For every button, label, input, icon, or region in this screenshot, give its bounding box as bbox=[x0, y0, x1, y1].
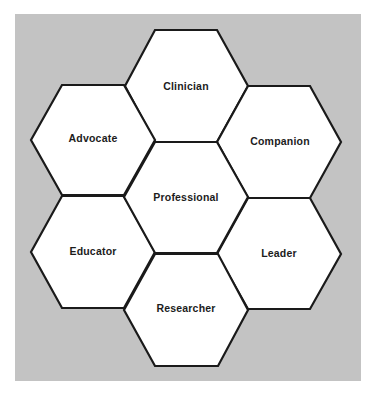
hex-advocate-label: Advocate bbox=[69, 132, 118, 144]
hex-researcher-label: Researcher bbox=[156, 302, 215, 314]
hex-professional-label: Professional bbox=[153, 191, 218, 203]
hex-leader-label: Leader bbox=[261, 247, 297, 259]
hex-clinician-label: Clinician bbox=[163, 80, 209, 92]
hex-educator-label: Educator bbox=[69, 245, 116, 257]
hexagon-diagram: Clinician Advocate Companion Educator Le… bbox=[0, 0, 377, 393]
hex-companion-label: Companion bbox=[250, 135, 310, 147]
